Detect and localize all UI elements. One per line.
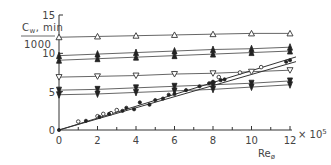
filled-circle-point — [208, 82, 211, 85]
filled-circle-point — [173, 92, 176, 95]
filled-circle-point — [219, 79, 222, 82]
filled-circle-point — [98, 115, 101, 118]
open-circle-point — [101, 112, 105, 116]
x-tick-label: 4 — [133, 135, 139, 146]
x-tick-label: 0 — [56, 135, 62, 146]
filled-circle-point — [184, 89, 187, 92]
open-circle-point — [259, 65, 263, 69]
filled-circle-point — [167, 93, 170, 96]
filled-circle-point — [161, 97, 164, 100]
x-label: Reø — [258, 148, 276, 161]
filled-circle-point — [121, 109, 124, 112]
x-tick-label: 10 — [245, 135, 258, 146]
y-label-top: Cw, min — [22, 22, 63, 35]
filled-circle-point — [57, 128, 60, 131]
filled-circle-point — [132, 108, 135, 111]
filled-circle-point — [148, 103, 151, 106]
y-tick-label: 15 — [42, 10, 55, 21]
y-tick-label: 0 — [49, 125, 55, 136]
x-tick-label: 12 — [284, 135, 297, 146]
open-circle-point — [115, 108, 119, 112]
filled-circle-point — [154, 99, 157, 102]
y-label-bottom: 1000 — [24, 39, 51, 50]
filled-circle-point — [198, 85, 201, 88]
x-multiplier: × 105 — [298, 128, 327, 140]
filled-circle-point — [223, 78, 226, 81]
y-tick-label: 5 — [49, 87, 55, 98]
filled-circle-point — [285, 60, 288, 63]
x-tick-label: 6 — [171, 135, 177, 146]
filled-circle-point — [211, 80, 214, 83]
data-points — [56, 30, 293, 131]
chart: 024681012051015 Cw, min 1000 Reø × 105 — [0, 0, 331, 165]
filled-circle-point — [125, 106, 128, 109]
y-axis-label: Cw, min 1000 — [21, 22, 63, 50]
ticks: 024681012051015 — [42, 10, 296, 146]
filled-circle-point — [84, 119, 87, 122]
open-circle-point — [238, 71, 242, 75]
filled-circle-point — [138, 101, 141, 104]
x-tick-label: 2 — [94, 135, 100, 146]
x-tick-label: 8 — [210, 135, 216, 146]
open-circle-point — [76, 120, 80, 124]
filled-circle-point — [107, 112, 110, 115]
filled-circle-point — [288, 59, 291, 62]
